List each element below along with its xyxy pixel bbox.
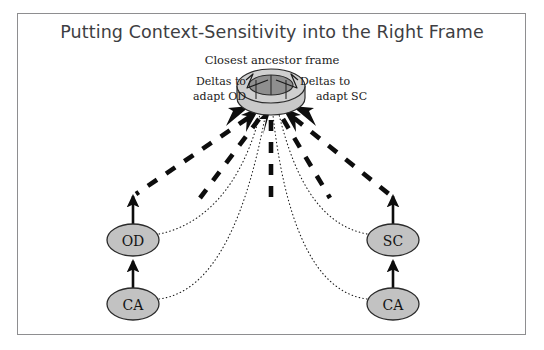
- deltas-adapt-od-label: Deltas to adapt OD: [180, 74, 246, 104]
- dashed-arrow-5: [294, 118, 389, 194]
- node-sc-label: SC: [383, 233, 403, 249]
- node-ca-left[interactable]: CA: [107, 288, 159, 320]
- node-ca-right-label: CA: [383, 297, 405, 313]
- deltas-adapt-sc-line2: adapt SC: [300, 89, 380, 104]
- dotted-curve-ca-left: [159, 106, 267, 299]
- deltas-adapt-od-line2: adapt OD: [180, 89, 246, 104]
- deltas-adapt-sc-line1: Deltas to: [300, 74, 380, 89]
- deltas-adapt-sc-label: Deltas to adapt SC: [300, 74, 380, 104]
- node-ca-right[interactable]: CA: [367, 288, 419, 320]
- dotted-curve-sc: [277, 106, 367, 234]
- closest-ancestor-frame: [237, 69, 305, 115]
- dashed-arrow-4: [283, 119, 330, 198]
- diagram-canvas: Putting Context-Sensitivity into the Rig…: [0, 0, 544, 350]
- solid-edge-group: [133, 196, 393, 288]
- closest-ancestor-frame-label: Closest ancestor frame: [0, 53, 544, 67]
- node-od-label: OD: [122, 233, 145, 249]
- dotted-curve-group: [159, 106, 367, 299]
- dashed-arrow-group: [136, 118, 389, 200]
- node-ca-left-label: CA: [123, 297, 145, 313]
- dotted-curve-ca-right: [272, 106, 367, 299]
- node-sc[interactable]: SC: [367, 224, 419, 256]
- deltas-adapt-od-line1: Deltas to: [180, 74, 246, 89]
- node-od[interactable]: OD: [107, 224, 159, 256]
